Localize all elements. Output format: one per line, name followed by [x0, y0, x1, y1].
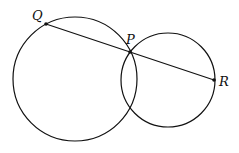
label-r: R: [218, 74, 229, 89]
label-p: P: [125, 32, 135, 47]
label-q: Q: [32, 8, 43, 23]
large-circle: [13, 17, 137, 141]
point-p: [128, 50, 132, 54]
point-r: [212, 78, 216, 82]
point-q: [44, 22, 48, 26]
small-circle: [121, 33, 215, 127]
geometry-diagram: Q P R: [0, 0, 239, 153]
